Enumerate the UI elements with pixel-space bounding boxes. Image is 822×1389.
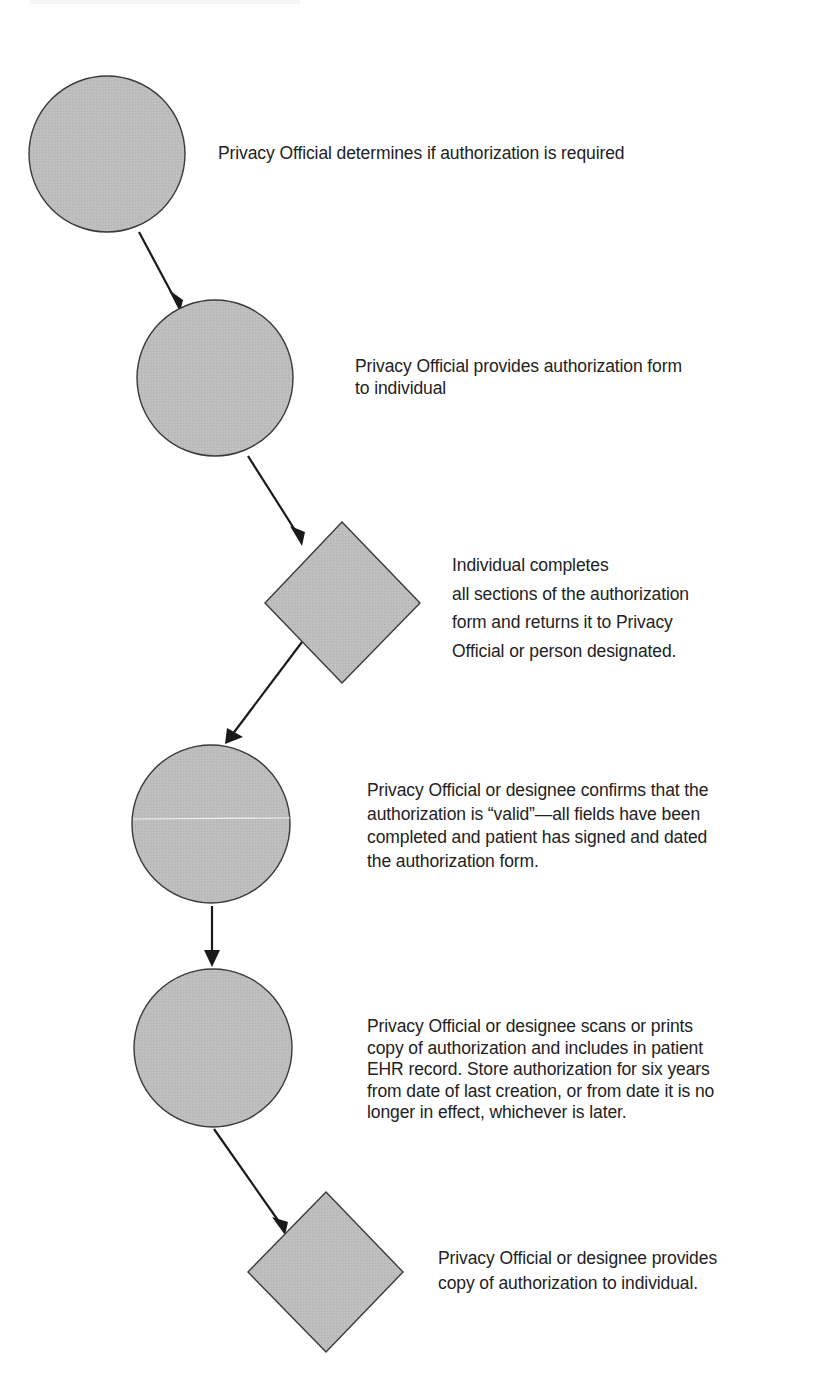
connector-3-4	[225, 642, 302, 744]
arrowhead-icon	[272, 1217, 288, 1235]
step-2-line-2: to individual	[355, 377, 682, 399]
step-2-circle-node	[137, 300, 293, 456]
step-5-line-5: longer in effect, whichever is later.	[367, 1102, 714, 1124]
connector-2-3	[248, 456, 305, 546]
step-6-line-2: copy of authorization to individual.	[438, 1271, 717, 1296]
step-5-line-1: Privacy Official or designee scans or pr…	[367, 1016, 714, 1038]
step-3-line-3: form and returns it to Privacy	[452, 608, 689, 637]
step-3-line-4: Official or person designated.	[452, 637, 689, 666]
arrowhead-icon	[204, 950, 220, 967]
step-3-line-1: Individual completes	[452, 551, 689, 580]
step-5-label: Privacy Official or designee scans or pr…	[367, 1016, 714, 1124]
step-6-label: Privacy Official or designee provides co…	[438, 1246, 717, 1296]
step-2-label: Privacy Official provides authorization …	[355, 355, 682, 399]
step-6-diamond-node	[248, 1192, 403, 1352]
step-1-line-1: Privacy Official determines if authoriza…	[218, 142, 624, 164]
step-3-label: Individual completes all sections of the…	[452, 551, 689, 665]
step-5-circle-node	[134, 969, 292, 1127]
step-4-circle-node	[132, 745, 290, 903]
arrowhead-icon	[225, 728, 243, 744]
connector-5-6	[214, 1129, 288, 1235]
step-1-circle-node	[29, 76, 185, 232]
step-4-label: Privacy Official or designee confirms th…	[367, 779, 708, 873]
step-2-line-1: Privacy Official provides authorization …	[355, 355, 682, 377]
step-5-line-3: EHR record. Store authorization for six …	[367, 1059, 714, 1081]
flowchart-canvas	[0, 0, 822, 1389]
arrowhead-icon	[290, 526, 305, 546]
step-6-line-1: Privacy Official or designee provides	[438, 1246, 717, 1271]
step-1-label: Privacy Official determines if authoriza…	[218, 142, 624, 164]
step-4-line-3: completed and patient has signed and dat…	[367, 826, 708, 850]
step-4-line-1: Privacy Official or designee confirms th…	[367, 779, 708, 803]
step-4-line-2: authorization is “valid”—all fields have…	[367, 803, 708, 827]
step-5-line-2: copy of authorization and includes in pa…	[367, 1038, 714, 1060]
step-3-line-2: all sections of the authorization	[452, 580, 689, 609]
connector-4-5	[204, 906, 220, 967]
connector-1-2	[139, 232, 183, 312]
step-5-line-4: from date of last creation, or from date…	[367, 1081, 714, 1103]
step-4-line-4: the authorization form.	[367, 850, 708, 874]
